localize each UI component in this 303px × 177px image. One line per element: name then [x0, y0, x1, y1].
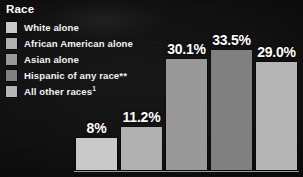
- bar-value-label: 8%: [87, 120, 107, 136]
- bar-group: 33.5%: [211, 50, 252, 170]
- bar-value-label: 11.2%: [123, 109, 161, 125]
- bar: [121, 127, 162, 170]
- bar-group: 11.2%: [121, 127, 162, 170]
- plot-area: 8% 11.2% 30.1% 33.5% 29.0%: [0, 0, 303, 177]
- bar-value-label: 33.5%: [212, 32, 251, 48]
- bar: [166, 59, 207, 170]
- bar: [76, 138, 117, 170]
- bar-value-label: 30.1%: [167, 41, 206, 57]
- bar-group: 30.1%: [166, 59, 207, 170]
- axis-baseline: [74, 171, 299, 172]
- race-bar-chart-figure: Race White alone African American alone …: [0, 0, 303, 177]
- bar: [211, 50, 252, 170]
- bar: [256, 62, 297, 170]
- bar-value-label: 29.0%: [257, 44, 296, 60]
- bar-group: 29.0%: [256, 62, 297, 170]
- bar-group: 8%: [76, 138, 117, 170]
